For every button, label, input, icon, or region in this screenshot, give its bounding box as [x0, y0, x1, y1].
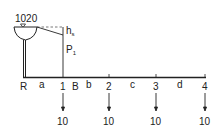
arrow-down-icon [108, 107, 111, 111]
segment-label-c: c [130, 79, 135, 90]
demand-node4: 10 [199, 116, 211, 127]
segment-label-d: d [177, 79, 183, 90]
node-label-3: 3 [153, 81, 159, 92]
node-label-1: 1 [60, 81, 66, 92]
segment-label-B: B [72, 81, 79, 92]
hydraulic-grade-line [37, 27, 63, 35]
pressure-label: P1 [66, 44, 77, 56]
pipe-network-diagram: 1020 hs P1 R 1 2 3 4 a B b c d 10 10 10 … [0, 0, 216, 132]
demand-node1: 10 [57, 116, 69, 127]
reservoir-elevation-label: 1020 [15, 13, 38, 24]
demand-arrows [62, 93, 207, 111]
segment-label-b: b [86, 79, 92, 90]
node-label-2: 2 [106, 81, 112, 92]
arrow-down-icon [204, 107, 207, 111]
node-label-R: R [20, 81, 27, 92]
segment-label-a: a [39, 79, 45, 90]
demand-node2: 10 [103, 116, 115, 127]
reservoir-tank-icon [14, 27, 37, 40]
arrow-down-icon [62, 107, 65, 111]
arrow-down-icon [155, 107, 158, 111]
demand-node3: 10 [150, 116, 162, 127]
head-loss-label: hs [66, 25, 75, 37]
node-label-4: 4 [202, 81, 208, 92]
